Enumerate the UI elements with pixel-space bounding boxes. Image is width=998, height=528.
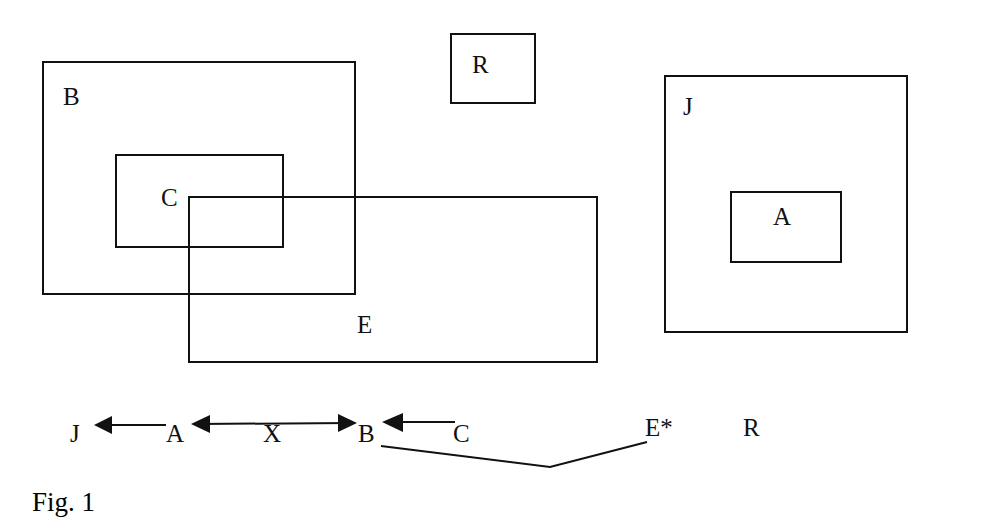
arrowhead-right-icon: [338, 414, 357, 432]
sequence-arrows: [0, 0, 998, 528]
arrowhead-left-icon: [382, 413, 403, 432]
arrowhead-left-icon: [191, 415, 210, 433]
figure-caption: Fig. 1: [32, 487, 95, 518]
arrowhead-left-icon: [94, 416, 112, 434]
